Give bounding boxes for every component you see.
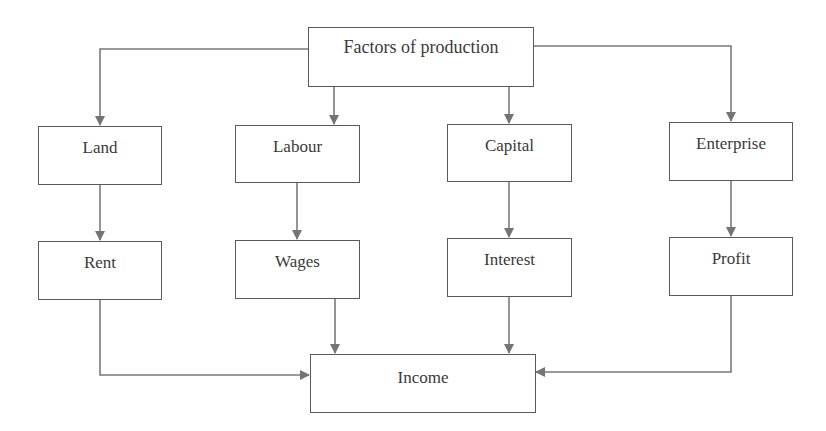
node-income: Income	[310, 354, 536, 413]
arrow-profit-to-income	[536, 295, 731, 372]
node-label: Factors of production	[309, 28, 533, 58]
node-land: Land	[38, 126, 162, 185]
node-capital: Capital	[447, 124, 572, 182]
arrow-rent-to-income	[100, 299, 309, 375]
node-label: Interest	[448, 239, 571, 270]
node-profit: Profit	[669, 237, 793, 296]
node-labour: Labour	[235, 125, 360, 183]
node-label: Land	[39, 127, 161, 158]
node-label: Profit	[670, 238, 792, 269]
arrow-root-to-enterprise	[533, 46, 731, 121]
node-enterprise: Enterprise	[669, 122, 793, 181]
node-label: Income	[311, 355, 535, 388]
node-wages: Wages	[235, 240, 360, 299]
node-label: Labour	[236, 126, 359, 157]
node-interest: Interest	[447, 238, 572, 297]
node-factors-of-production: Factors of production	[308, 27, 534, 87]
node-label: Wages	[236, 241, 359, 272]
node-label: Capital	[448, 125, 571, 156]
node-label: Enterprise	[670, 123, 792, 154]
arrow-root-to-land	[100, 49, 308, 125]
node-label: Rent	[39, 242, 161, 273]
node-rent: Rent	[38, 241, 162, 300]
